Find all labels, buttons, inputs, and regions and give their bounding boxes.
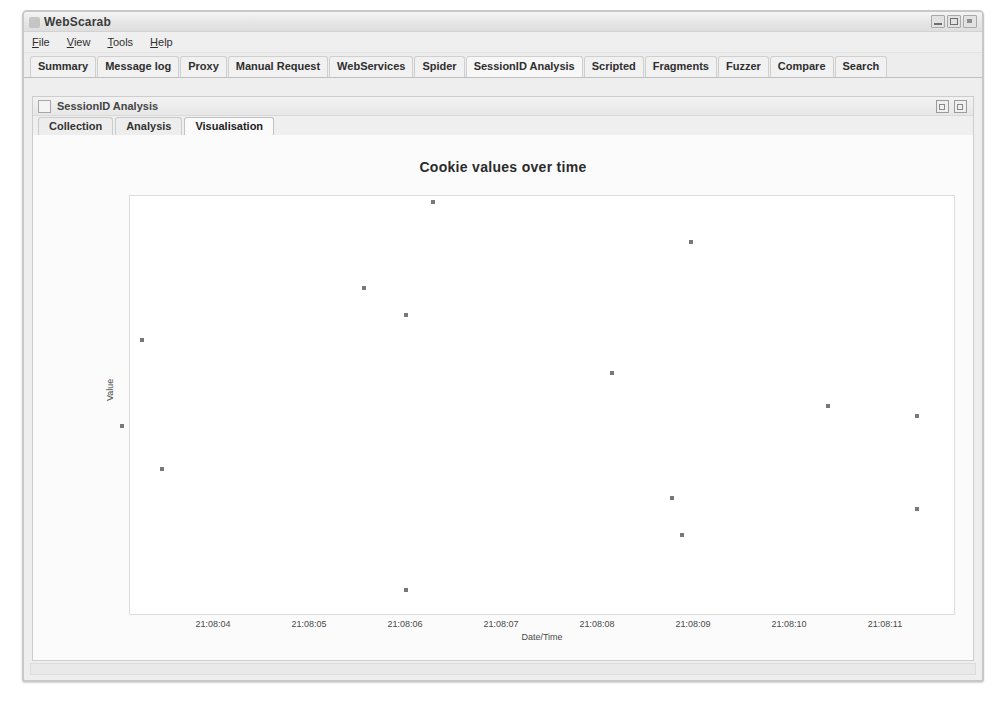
webscarab-icon xyxy=(29,17,40,28)
tab-manual-request[interactable]: Manual Request xyxy=(228,56,328,77)
sessionid-analysis-frame: SessionID Analysis Collection Analysis V… xyxy=(32,96,974,661)
menu-item-file[interactable]: File xyxy=(30,35,59,49)
x-tick-label: 21:08:05 xyxy=(291,619,326,629)
x-tick-label: 21:08:09 xyxy=(675,619,710,629)
frame-maximize-button[interactable] xyxy=(954,100,967,113)
menu-item-tools[interactable]: Tools xyxy=(105,35,142,49)
data-point xyxy=(680,533,684,537)
tab-webservices[interactable]: WebServices xyxy=(329,56,413,77)
status-strip xyxy=(30,663,976,675)
data-point xyxy=(610,371,614,375)
x-axis-label: Date/Time xyxy=(129,632,955,642)
frame-controls xyxy=(936,100,967,113)
data-point xyxy=(915,507,919,511)
x-tick-label: 21:08:07 xyxy=(483,619,518,629)
menu-mnemonic: V xyxy=(67,36,74,48)
scatter-plot-area xyxy=(129,195,955,615)
tab-spider[interactable]: Spider xyxy=(414,56,464,77)
y-axis-label: Value xyxy=(105,379,115,401)
menu-label-rest: ile xyxy=(39,36,50,48)
data-point xyxy=(670,496,674,500)
data-point xyxy=(404,313,408,317)
data-point xyxy=(160,467,164,471)
chart-title: Cookie values over time xyxy=(33,159,973,175)
chart-panel: Cookie values over time Value Date/Time … xyxy=(33,135,973,660)
frame-restore-button[interactable] xyxy=(936,100,949,113)
close-button[interactable] xyxy=(963,15,977,28)
tab-search[interactable]: Search xyxy=(835,56,888,77)
data-point xyxy=(689,240,693,244)
x-tick-label: 21:08:06 xyxy=(387,619,422,629)
frame-tab-strip: Collection Analysis Visualisation xyxy=(33,116,973,136)
data-point xyxy=(362,286,366,290)
x-tick-label: 21:08:08 xyxy=(579,619,614,629)
menu-mnemonic: F xyxy=(32,36,39,48)
data-point xyxy=(140,338,144,342)
tab-analysis[interactable]: Analysis xyxy=(115,117,182,135)
menu-item-view[interactable]: View xyxy=(65,35,100,49)
tab-collection[interactable]: Collection xyxy=(38,117,113,135)
x-tick-label: 21:08:10 xyxy=(771,619,806,629)
maximize-button[interactable] xyxy=(947,15,961,28)
menu-label-rest: ools xyxy=(113,36,133,48)
data-point xyxy=(826,404,830,408)
main-tab-strip: Summary Message log Proxy Manual Request… xyxy=(24,53,982,78)
window-title: WebScarab xyxy=(44,15,111,29)
minimize-button[interactable] xyxy=(931,15,945,28)
menu-bar: File View Tools Help xyxy=(24,32,982,53)
tab-summary[interactable]: Summary xyxy=(30,56,96,77)
tab-sessionid-analysis[interactable]: SessionID Analysis xyxy=(466,56,583,77)
window-title-bar: WebScarab xyxy=(24,12,982,32)
tab-compare[interactable]: Compare xyxy=(770,56,834,77)
data-point xyxy=(404,588,408,592)
menu-label-rest: iew xyxy=(74,36,91,48)
tab-message-log[interactable]: Message log xyxy=(97,56,179,77)
data-point xyxy=(915,414,919,418)
data-point xyxy=(120,424,124,428)
frame-title-bar: SessionID Analysis xyxy=(33,97,973,116)
menu-label-rest: elp xyxy=(158,36,173,48)
x-tick-label: 21:08:11 xyxy=(868,619,902,629)
window-controls xyxy=(931,15,977,28)
application-window: WebScarab File View Tools Help Summary M… xyxy=(22,10,984,682)
tab-fuzzer[interactable]: Fuzzer xyxy=(718,56,769,77)
menu-item-help[interactable]: Help xyxy=(148,35,182,49)
frame-window-icon xyxy=(38,100,51,113)
tab-scripted[interactable]: Scripted xyxy=(584,56,644,77)
frame-title: SessionID Analysis xyxy=(57,100,158,112)
tab-proxy[interactable]: Proxy xyxy=(180,56,227,77)
tab-fragments[interactable]: Fragments xyxy=(645,56,717,77)
data-point xyxy=(431,200,435,204)
menu-mnemonic: H xyxy=(150,36,158,48)
tab-visualisation[interactable]: Visualisation xyxy=(184,117,274,135)
x-tick-label: 21:08:04 xyxy=(195,619,230,629)
